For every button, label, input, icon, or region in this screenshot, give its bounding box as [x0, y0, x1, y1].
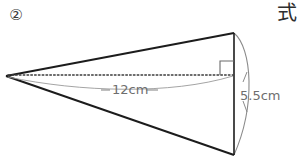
- worksheet-page: ② 式 12cm 5.5cm: [0, 0, 303, 160]
- right-angle-mark: [220, 61, 234, 75]
- radius-leader-upper: [243, 72, 247, 82]
- cone-figure: 12cm 5.5cm: [0, 0, 303, 160]
- upper-slant-edge: [6, 33, 234, 76]
- base-radius-label: 5.5cm: [240, 88, 281, 103]
- axis-length-label: 12cm: [112, 82, 148, 97]
